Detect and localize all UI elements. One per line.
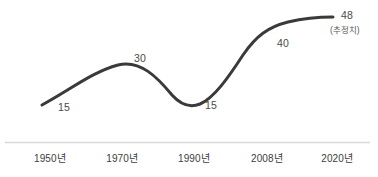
x-tick-label-1970: 1970년 bbox=[106, 154, 138, 164]
chart-plot-area bbox=[0, 0, 378, 177]
trend-line bbox=[42, 17, 333, 106]
data-label-2020: 48 bbox=[341, 10, 353, 21]
data-label-1990: 15 bbox=[205, 100, 217, 111]
line-chart: 15 30 15 40 48 (추정치) 1950년 1970년 1990년 2… bbox=[0, 0, 378, 177]
data-label-1950: 15 bbox=[58, 102, 70, 113]
x-tick-label-1990: 1990년 bbox=[178, 154, 210, 164]
data-label-1970: 30 bbox=[134, 53, 146, 64]
data-label-2020-note: (추정치) bbox=[330, 26, 360, 35]
x-tick-label-2020: 2020년 bbox=[321, 154, 353, 164]
data-label-2008: 40 bbox=[277, 38, 289, 49]
x-tick-label-2008: 2008년 bbox=[251, 154, 283, 164]
x-tick-label-1950: 1950년 bbox=[34, 154, 66, 164]
